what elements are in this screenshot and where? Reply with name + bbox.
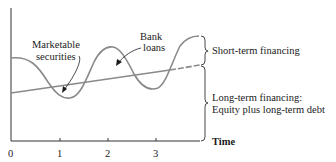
x-tick-label-0: 0 [8,148,13,159]
bank-loans-pointer [118,48,141,63]
marketable-securities-label-line1: Marketable [32,39,80,50]
long-term-trend-line-dashed [170,65,200,70]
long-term-trend-line [11,70,170,93]
short-term-financing-label: Short-term financing [212,45,301,56]
x-tick-label-1: 1 [57,148,62,159]
x-tick-label-2: 2 [105,148,110,159]
bank-loans-label-line1: Bank [140,31,163,42]
financing-diagram: 0 1 2 3 Marketable securities Bank loans… [0,0,336,162]
short-term-brace [201,36,208,65]
long-term-brace [201,66,208,141]
long-term-financing-label-line1: Long-term financing: [212,92,302,103]
marketable-securities-label-line2: securities [36,51,76,62]
long-term-financing-label-line2: Equity plus long-term debt [212,104,325,115]
x-tick-label-3: 3 [153,148,158,159]
x-axis-label: Time [212,136,235,147]
bank-loans-label-line2: loans [143,42,165,53]
